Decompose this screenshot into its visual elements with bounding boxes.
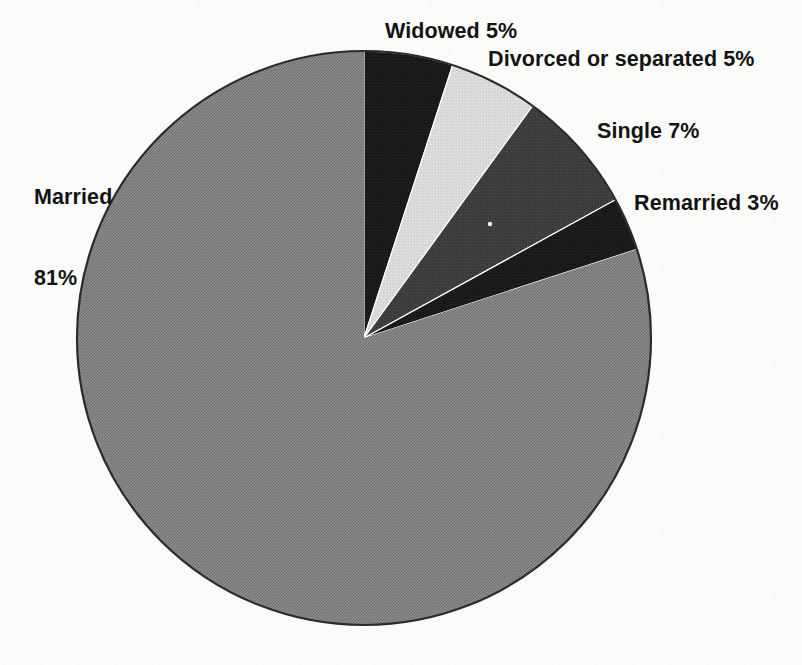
pie-slices-group [77,51,651,625]
pie-chart-figure: Widowed 5% Divorced or separated 5% Sing… [0,0,802,665]
slice-label-married-value: 81% [34,265,112,292]
scan-speck [488,222,492,226]
slice-label-remarried: Remarried 3% [634,190,779,217]
slice-label-divorced-or-separated: Divorced or separated 5% [488,46,754,73]
slice-label-married-name: Married [34,184,112,211]
pie-chart-canvas [0,0,802,665]
slice-label-single: Single 7% [597,118,699,145]
slice-label-widowed: Widowed 5% [385,18,517,45]
slice-label-married: Married 81% [34,130,112,346]
